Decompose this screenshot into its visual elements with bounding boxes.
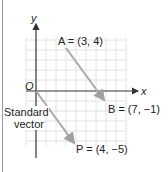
standard-vector-label-line1: Standard [4, 106, 49, 118]
point-p-label: P = (4, −5) [76, 143, 128, 155]
vector-ab-arrow [66, 48, 104, 100]
standard-vector-label-line2: vector [14, 118, 44, 130]
point-a-label: A = (3, 4) [58, 35, 103, 47]
x-axis-label: x [141, 85, 147, 97]
origin-label: O [25, 80, 34, 92]
point-b-label: B = (7, −1) [108, 103, 160, 115]
y-axis-label: y [31, 12, 37, 24]
